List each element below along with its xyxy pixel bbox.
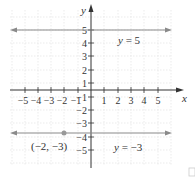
x-axis-label: x <box>181 92 187 104</box>
y-axis-label: y <box>80 4 86 16</box>
x-axis <box>10 87 184 93</box>
svg-text:2: 2 <box>116 95 121 106</box>
svg-text:4: 4 <box>142 95 147 106</box>
svg-text:−3: −3 <box>44 95 55 106</box>
svg-text:−4: −4 <box>31 95 42 106</box>
svg-text:−3: −3 <box>76 118 87 129</box>
svg-text:−5: −5 <box>76 145 87 156</box>
svg-text:−1: −1 <box>76 92 87 103</box>
line-y-equals-neg3-label: y = −3 <box>113 141 143 153</box>
point-label: (−2, −3) <box>31 140 68 153</box>
svg-text:4: 4 <box>82 38 87 49</box>
point-neg2-neg3 <box>62 131 67 136</box>
svg-text:3: 3 <box>82 51 87 62</box>
svg-text:5: 5 <box>156 95 161 106</box>
svg-text:3: 3 <box>129 95 134 106</box>
svg-text:−5: −5 <box>18 95 29 106</box>
line-y-equals-5-label: y = 5 <box>117 34 141 46</box>
corner-box-icon <box>189 168 195 176</box>
svg-text:−2: −2 <box>76 105 87 116</box>
svg-text:1: 1 <box>102 95 107 106</box>
svg-text:1: 1 <box>82 78 87 89</box>
svg-text:−2: −2 <box>57 95 68 106</box>
svg-text:2: 2 <box>82 65 87 76</box>
svg-text:−4: −4 <box>76 132 87 143</box>
coordinate-plane: −5 −4 −3 −2 −1 1 2 3 4 5 5 4 3 2 1 −1 −2… <box>0 0 195 185</box>
y-axis <box>88 4 94 168</box>
